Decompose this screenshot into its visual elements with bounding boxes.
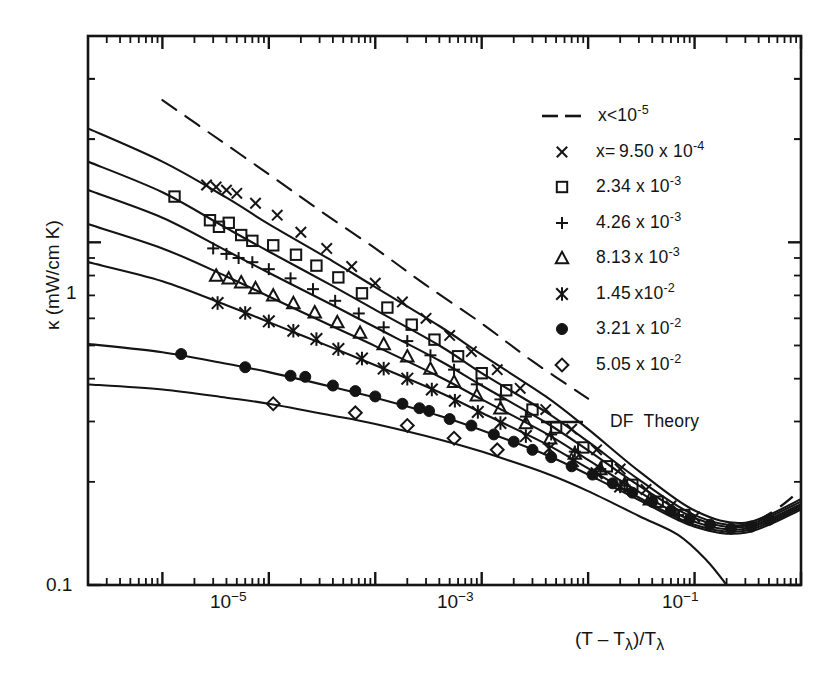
legend-marker-solid-line — [540, 409, 584, 435]
legend-marker-asterisk — [540, 281, 584, 307]
series-2 — [88, 162, 801, 526]
x-tick-label-1e-5: 10−5 — [210, 591, 247, 613]
legend-marker-dashed-line — [540, 103, 584, 129]
y-tick-label-0-1: 0.1 — [46, 574, 72, 596]
series-5 — [88, 262, 801, 532]
legend-label-7: 5.05 x 10-2 — [596, 354, 681, 375]
series-1 — [88, 128, 801, 523]
legend-label-1: x= 9.50 x 10-4 — [596, 141, 704, 162]
legend-label-2: 2.34 x 10-3 — [596, 176, 681, 197]
x-tick-label-1e-3: 10−3 — [437, 591, 474, 613]
legend-label-0: x<10-5 — [598, 105, 649, 126]
legend-label-5: 1.45 x10-2 — [596, 283, 675, 304]
plot-canvas — [0, 0, 828, 683]
legend-label-6: 3.21 x 10-2 — [596, 318, 681, 339]
legend-label-3: 4.26 x 10-3 — [596, 212, 681, 233]
legend-marker-plus — [540, 210, 584, 236]
y-axis-title: κ (mW/cm K) — [42, 220, 64, 330]
figure-thermal-conductivity-chart: 1 0.1 10−5 10−3 10−1 κ (mW/cm K) (T – Tλ… — [0, 0, 828, 683]
x-tick-label-1e-1: 10−1 — [662, 591, 699, 613]
legend-label-8: DF Theory — [610, 411, 699, 432]
x-axis-title: (T – Tλ)/Tλ — [575, 628, 664, 654]
series-4 — [88, 224, 801, 529]
series-6 — [88, 344, 801, 534]
y-tick-label-1: 1 — [66, 282, 77, 304]
legend-marker-cross — [540, 139, 584, 165]
legend-marker-diamond — [540, 352, 584, 378]
legend-label-4: 8.13 x 10-3 — [596, 247, 680, 268]
legend-marker-square — [540, 174, 584, 200]
legend-marker-filled-circle — [540, 316, 584, 342]
legend-marker-triangle — [540, 245, 584, 271]
